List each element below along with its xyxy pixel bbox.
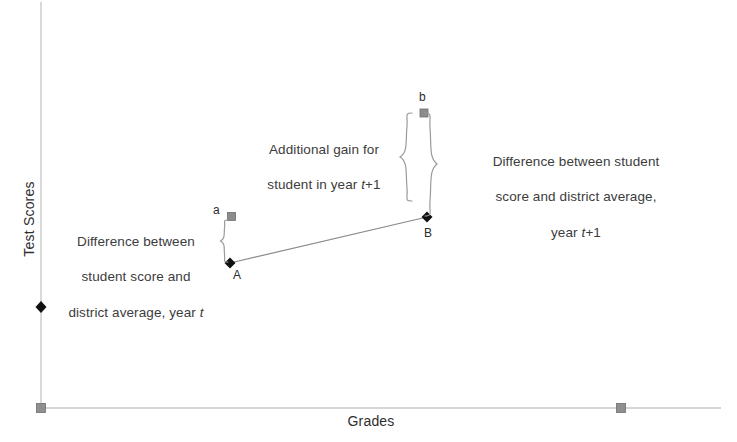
brace-year-t-plus-1-difference (425, 113, 437, 216)
annotation-center-line2-post: +1 (365, 177, 381, 192)
y-axis-diamond-marker (36, 301, 47, 313)
point-label-B-upper: B (424, 226, 432, 240)
annotation-year-t-plus-1-difference: Difference between student score and dis… (448, 135, 704, 242)
annotation-right-line2: score and district average, (495, 189, 656, 204)
annotation-right-line1: Difference between student (493, 154, 660, 169)
student-trajectory-line (230, 217, 427, 263)
annotation-left-line2: student score and (81, 269, 190, 284)
district-average-a-marker (228, 213, 236, 221)
point-label-A-upper: A (233, 268, 241, 282)
point-label-b: b (419, 90, 426, 104)
annotation-left-line3-italic: t (200, 305, 204, 320)
x-axis-square-marker (617, 404, 626, 413)
annotation-left-line1: Difference between (77, 234, 195, 249)
annotation-left-line3: district average, year (68, 305, 199, 320)
brace-year-t-difference (221, 220, 229, 262)
annotation-right-line3-post: +1 (585, 225, 601, 240)
annotation-year-t-difference: Difference between student score and dis… (52, 215, 220, 322)
data-point-A-marker (225, 258, 236, 269)
y-axis-title: Test Scores (21, 159, 37, 279)
x-axis-title: Grades (291, 413, 451, 429)
annotation-center-line2: student in year (267, 177, 361, 192)
origin-square-marker (37, 404, 46, 413)
annotation-additional-gain: Additional gain for student in year t+1 (238, 123, 410, 194)
chart-figure: Test Scores Grades a b A B Difference be… (0, 0, 737, 442)
annotation-right-line3: year (551, 225, 582, 240)
data-point-B-marker (422, 212, 433, 223)
annotation-center-line1: Additional gain for (269, 142, 379, 157)
